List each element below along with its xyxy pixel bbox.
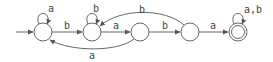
- edge-label-q3-q4: a: [210, 20, 216, 31]
- state-q4-inner-ring: [232, 26, 245, 39]
- edge-label-q0-q1: b: [64, 20, 70, 31]
- edge-q4-self: [233, 14, 243, 25]
- edge-label-q1-self: b: [93, 3, 99, 14]
- edge-label-q3-q1: b: [139, 4, 145, 15]
- state-q0: [34, 23, 52, 41]
- automaton-diagram: a b b a a b b a a,b: [0, 0, 273, 62]
- edge-label-q1-q2: a: [113, 20, 119, 31]
- edge-label-q2-q3: b: [162, 20, 168, 31]
- state-q1: [83, 23, 101, 41]
- edge-label-q4-self: a,b: [244, 4, 262, 15]
- edge-label-q0-self: a: [48, 3, 54, 14]
- edge-q0-self: [38, 14, 48, 25]
- edge-q1-self: [87, 14, 97, 25]
- edge-label-q2-q0: a: [89, 50, 95, 61]
- state-q3: [181, 23, 199, 41]
- state-q2: [131, 23, 149, 41]
